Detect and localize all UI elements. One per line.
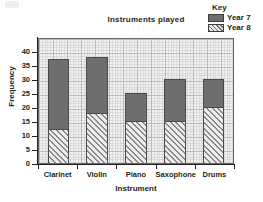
bar-segment-year-7 <box>125 93 147 121</box>
y-axis-tick <box>32 94 37 95</box>
bar-segment-year-8 <box>86 113 108 163</box>
bar-segment-year-8 <box>203 107 225 163</box>
y-axis-title: Frequency <box>7 52 16 122</box>
bar-segment-year-7 <box>48 59 70 129</box>
y-axis-tick-label: 20 <box>14 104 30 112</box>
y-axis-tick <box>32 164 37 165</box>
y-axis-tick <box>32 52 37 53</box>
y-axis-tick-label: 15 <box>14 118 30 126</box>
bars-layer <box>39 39 233 163</box>
x-axis-tick <box>116 165 117 169</box>
y-axis-tick-label: 0 <box>14 160 30 168</box>
bar-segment-year-7 <box>164 79 186 121</box>
y-axis-line <box>37 37 38 165</box>
y-axis-tick <box>32 66 37 67</box>
x-axis-tick-label: Violin <box>77 171 116 179</box>
x-axis-tick <box>38 165 39 169</box>
y-axis-tick <box>32 122 37 123</box>
y-axis-tick-label: 30 <box>14 76 30 84</box>
y-axis-tick-label: 25 <box>14 90 30 98</box>
y-axis-tick <box>32 150 37 151</box>
x-axis-tick <box>156 165 157 169</box>
bar-segment-year-8 <box>164 121 186 163</box>
y-axis-tick-label: 40 <box>14 48 30 56</box>
legend-label-year-7: Year 7 <box>227 13 251 22</box>
bar-stack <box>203 79 225 163</box>
bar-segment-year-8 <box>125 121 147 163</box>
y-axis-tick <box>32 108 37 109</box>
x-axis-tick <box>77 165 78 169</box>
bar-segment-year-7 <box>86 57 108 113</box>
y-axis-tick <box>32 80 37 81</box>
x-axis-tick <box>234 165 235 169</box>
bar-segment-year-8 <box>48 129 70 163</box>
x-axis-tick-label: Clarinet <box>38 171 77 179</box>
y-axis-tick-label: 5 <box>14 146 30 154</box>
bar-group <box>117 39 156 163</box>
legend-item-year-7: Year 7 <box>208 13 260 22</box>
legend-title: Key <box>212 3 260 12</box>
chart-legend: Key Year 7 Year 8 <box>208 3 260 33</box>
x-axis-tick <box>195 165 196 169</box>
scan-artifact <box>5 1 19 8</box>
y-axis-tick <box>32 136 37 137</box>
x-axis-title: Instrument <box>38 184 234 193</box>
x-axis-tick-label: Drums <box>195 171 234 179</box>
x-axis-tick-label: Saxophone <box>156 171 195 179</box>
y-axis-tick-label: 35 <box>14 62 30 70</box>
legend-swatch-year-7-icon <box>208 14 224 22</box>
bar-group <box>39 39 78 163</box>
bar-group <box>155 39 194 163</box>
x-axis-tick-label: Piano <box>116 171 155 179</box>
x-axis-line <box>37 164 235 165</box>
bar-stack <box>86 57 108 163</box>
bar-stack <box>48 59 70 163</box>
bar-stack <box>164 79 186 163</box>
bar-group <box>78 39 117 163</box>
chart-title: Instruments played <box>86 15 206 24</box>
legend-item-year-8: Year 8 <box>208 23 260 32</box>
bar-segment-year-7 <box>203 79 225 107</box>
legend-swatch-year-8-icon <box>208 24 224 32</box>
bar-stack <box>125 93 147 163</box>
plot-area <box>38 38 234 164</box>
bar-group <box>194 39 233 163</box>
y-axis-tick-label: 10 <box>14 132 30 140</box>
legend-label-year-8: Year 8 <box>227 23 251 32</box>
